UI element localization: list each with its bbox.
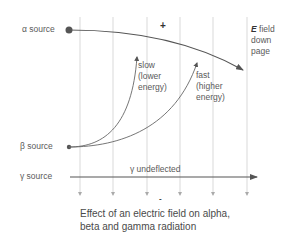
beta-slow-annotation: slow (lower energy): [138, 60, 167, 93]
diagram-canvas: [0, 0, 291, 242]
positive-plate-sign: +: [160, 20, 166, 31]
field-direction-label: E field down page: [251, 24, 275, 57]
alpha-source-label: α source: [22, 24, 55, 35]
gamma-undeflected-label: γ undeflected: [130, 164, 181, 175]
figure-caption: Effect of an electric field on alpha, be…: [80, 207, 230, 233]
gamma-source-label: γ source: [20, 171, 52, 182]
beta-slow-path: [69, 57, 137, 147]
beta-fast-path: [69, 63, 197, 147]
negative-plate-sign: -: [159, 194, 162, 203]
beta-fast-annotation: fast (higher energy): [196, 70, 225, 103]
beta-source-label: β source: [20, 141, 53, 152]
